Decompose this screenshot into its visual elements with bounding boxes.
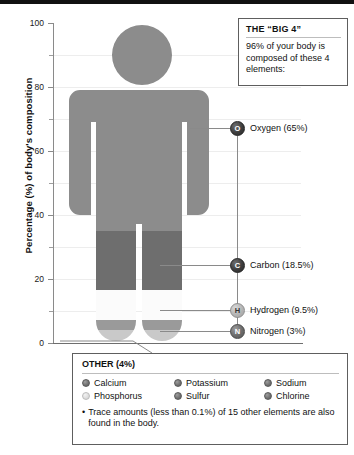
big-4-callout-box: THE “BIG 4” 96% of your body is composed… (238, 18, 348, 86)
other-element-item: Chlorine (264, 391, 339, 402)
infographic-canvas: 100 80 60 40 20 0 Percentage (%) of body… (0, 0, 354, 455)
bullet-dot-icon (264, 379, 272, 387)
bullet-dot-icon (82, 392, 90, 400)
big-4-title: THE “BIG 4” (246, 24, 341, 34)
trace-note: • Trace amounts (less than 0.1%) of 15 o… (82, 407, 339, 429)
other-box-divider (82, 373, 339, 374)
trace-bullet-icon: • (82, 407, 85, 429)
other-element-label: Sodium (276, 378, 307, 389)
other-elements-grid: Calcium Potassium Sodium Phosphorus Sulf… (82, 378, 339, 402)
bullet-dot-icon (264, 392, 272, 400)
other-element-label: Potassium (186, 378, 228, 389)
bullet-dot-icon (174, 379, 182, 387)
other-element-item: Phosphorus (82, 391, 174, 402)
other-element-item: Calcium (82, 378, 174, 389)
other-element-item: Sulfur (174, 391, 264, 402)
big-4-divider (246, 37, 341, 38)
big-4-body: 96% of your body is composed of these 4 … (246, 41, 341, 76)
bullet-dot-icon (174, 392, 182, 400)
other-element-label: Sulfur (186, 391, 210, 402)
other-element-item: Potassium (174, 378, 264, 389)
other-element-label: Phosphorus (94, 391, 142, 402)
other-element-item: Sodium (264, 378, 339, 389)
other-element-label: Calcium (94, 378, 127, 389)
other-element-label: Chlorine (276, 391, 310, 402)
other-box-title: OTHER (4%) (82, 359, 339, 369)
trace-note-text: Trace amounts (less than 0.1%) of 15 oth… (88, 407, 339, 429)
bullet-dot-icon (82, 379, 90, 387)
other-elements-box: OTHER (4%) Calcium Potassium Sodium Phos… (72, 353, 348, 445)
